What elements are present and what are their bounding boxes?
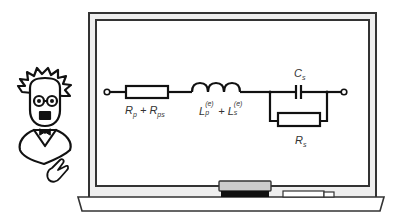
label-l-sub: p [205, 109, 209, 116]
terminal-left-icon [104, 89, 110, 95]
label-r2-sub: s [303, 141, 307, 148]
pointing-hand-icon [47, 159, 68, 182]
label-capacitor: Cs [294, 68, 305, 81]
label-r1-main: R [125, 104, 133, 116]
label-r2-main: R [295, 134, 303, 146]
label-l-scripts: (e)p [205, 104, 212, 115]
label-l-sup: (e) [205, 100, 214, 107]
resistor-parallel-icon [278, 113, 320, 126]
chalk-icon [283, 191, 334, 197]
label-l2-sub: s [234, 109, 238, 116]
label-l2-sup: (e) [234, 100, 243, 107]
professor-mouth [40, 112, 50, 119]
label-r1-sub2: ps [157, 111, 164, 118]
label-plus-1: + [137, 104, 150, 116]
eraser-icon [219, 181, 271, 197]
label-c-sub: s [302, 74, 306, 81]
chalkboard-ledge [78, 197, 384, 211]
label-plus-2: + [215, 105, 228, 117]
resistor-series-icon [126, 86, 168, 98]
label-c-main: C [294, 67, 302, 79]
terminal-right-icon [341, 89, 347, 95]
label-inductance: L(e)p + L(e)s [199, 104, 241, 117]
professor-character [18, 68, 71, 182]
label-parallel-resistance: Rs [295, 135, 306, 148]
label-l2-scripts: (e)s [234, 104, 241, 115]
label-series-resistance: Rp + Rps [125, 105, 165, 118]
